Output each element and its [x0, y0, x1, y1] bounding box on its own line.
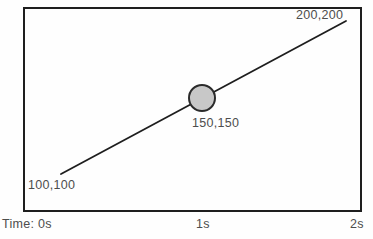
- end-point-label: 200,200: [296, 9, 343, 22]
- mid-point-label: 150,150: [192, 117, 239, 130]
- time-axis-end-label: 2s: [350, 218, 364, 231]
- animation-interpolation-diagram: 100,100 150,150 200,200 Time: 0s 1s 2s: [0, 0, 373, 239]
- time-axis-mid-label: 1s: [196, 218, 210, 231]
- start-point-label: 100,100: [28, 179, 75, 192]
- time-axis-start-label: Time: 0s: [2, 218, 52, 231]
